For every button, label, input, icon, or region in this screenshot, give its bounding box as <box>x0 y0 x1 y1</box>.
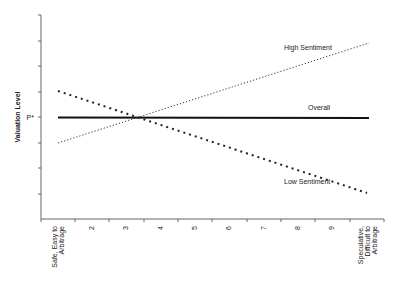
chart: Valuation Level P* High Sentiment Overal… <box>0 0 400 282</box>
x-label-8: 8 <box>294 226 301 230</box>
overall-label: Overall <box>308 104 331 111</box>
x-label-3: 3 <box>122 226 129 230</box>
x-label-2: 2 <box>88 226 95 230</box>
x-label-1b: Arbitrage <box>58 226 66 255</box>
x-label-6: 6 <box>225 226 232 230</box>
x-label-5: 5 <box>191 226 198 230</box>
high-sentiment-line <box>58 43 369 143</box>
low-sentiment-label: Low Sentiment <box>284 178 330 185</box>
x-label-7: 7 <box>260 226 267 230</box>
x-tick-labels: Safe, Easy to Arbitrage 2 3 4 5 6 7 8 9 … <box>51 226 379 268</box>
high-sentiment-label: High Sentiment <box>284 44 332 52</box>
pstar-label: P* <box>27 114 35 121</box>
x-label-4: 4 <box>157 226 164 230</box>
y-axis-label: Valuation Level <box>14 91 21 142</box>
x-label-10c: Arbitrage <box>371 226 379 255</box>
overall-line <box>58 118 369 119</box>
x-label-9: 9 <box>328 226 335 230</box>
x-label-10b: Difficult to <box>364 226 371 257</box>
